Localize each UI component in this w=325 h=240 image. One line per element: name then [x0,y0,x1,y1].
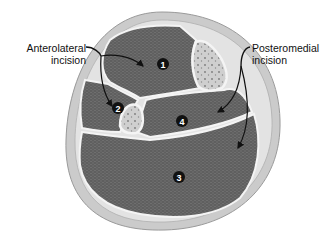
label-line-2: incision [4,54,86,66]
marker-4: 4 [176,115,188,127]
marker-2: 2 [112,102,124,114]
label-line-2: incision [252,54,324,66]
label-line-1: Posteromedial [252,42,324,54]
marker-1: 1 [157,58,169,70]
svg-text:4: 4 [179,117,184,127]
svg-text:3: 3 [176,173,181,183]
marker-3: 3 [173,171,185,183]
svg-text:2: 2 [115,104,120,114]
svg-text:1: 1 [160,60,165,70]
leg-cross-section-diagram: 1 2 4 3 [0,0,325,240]
posteromedial-incision-label: Posteromedial incision [252,42,324,66]
anterolateral-incision-label: Anterolateral incision [4,42,86,66]
label-line-1: Anterolateral [4,42,86,54]
